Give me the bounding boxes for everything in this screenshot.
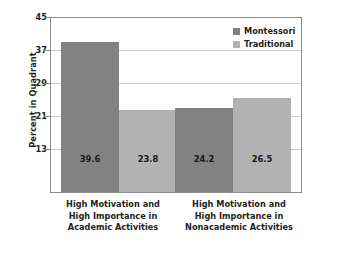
legend-swatch-icon-traditional [233, 41, 240, 48]
bar-montessori-academic: 39.6 [61, 42, 119, 193]
bar-montessori-nonacademic: 24.2 [175, 108, 233, 192]
x-axis-labels: High Motivation and High Importance in A… [50, 199, 302, 234]
bar-value-montessori-academic: 39.6 [61, 154, 119, 164]
legend: Montessori Traditional [233, 26, 295, 50]
bar-traditional-nonacademic: 26.5 [233, 98, 291, 192]
legend-item-montessori: Montessori [233, 26, 295, 37]
y-axis-title: Percent in Quadrant [28, 20, 38, 180]
legend-label-montessori: Montessori [244, 27, 295, 36]
bar-chart: Percent in Quadrant 45 37 29 21 13 39.6 … [0, 0, 352, 256]
bar-traditional-academic: 23.8 [119, 110, 177, 192]
legend-item-traditional: Traditional [233, 39, 295, 50]
x-label-academic: High Motivation and High Importance in A… [50, 199, 176, 234]
legend-swatch-icon-montessori [233, 28, 240, 35]
y-tick-label-13: 13 [7, 144, 47, 154]
x-label-academic-line1: High Motivation and [50, 199, 176, 211]
x-label-nonacademic-line3: Nonacademic Activities [176, 222, 302, 234]
y-tick-label-37: 37 [7, 45, 47, 55]
y-tick-label-45: 45 [7, 12, 47, 22]
x-label-nonacademic-line1: High Motivation and [176, 199, 302, 211]
bar-value-traditional-academic: 23.8 [119, 154, 177, 164]
legend-label-traditional: Traditional [244, 40, 293, 49]
bar-value-montessori-nonacademic: 24.2 [175, 154, 233, 164]
y-tick-label-21: 21 [7, 111, 47, 121]
bar-value-traditional-nonacademic: 26.5 [233, 154, 291, 164]
y-tick-label-29: 29 [7, 78, 47, 88]
x-label-academic-line3: Academic Activities [50, 222, 176, 234]
x-label-nonacademic: High Motivation and High Importance in N… [176, 199, 302, 234]
x-label-academic-line2: High Importance in [50, 211, 176, 223]
x-label-nonacademic-line2: High Importance in [176, 211, 302, 223]
